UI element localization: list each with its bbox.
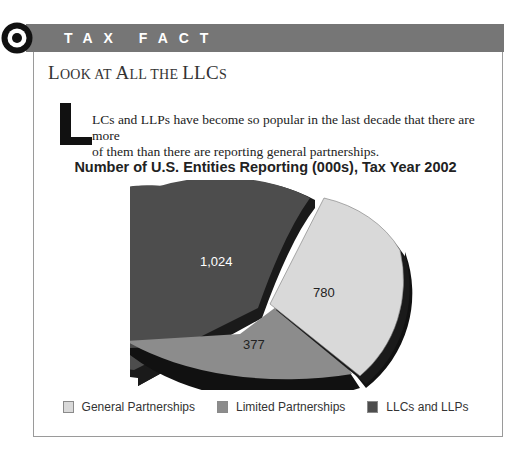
chart-title: Number of U.S. Entities Reporting (000s)… bbox=[0, 159, 531, 175]
header-bar: TAX FACT bbox=[26, 24, 504, 52]
headline-part: LL THE bbox=[129, 67, 182, 82]
legend-swatch bbox=[217, 401, 228, 413]
legend-label: General Partnerships bbox=[82, 400, 195, 414]
legend-label: LLCs and LLPs bbox=[386, 400, 468, 414]
intro-line: of them than there are reporting general… bbox=[92, 144, 497, 160]
legend-item-limited: Limited Partnerships bbox=[217, 400, 345, 414]
legend-swatch bbox=[367, 401, 378, 413]
headline-part: LLC bbox=[182, 62, 219, 83]
legend-item-llcs: LLCs and LLPs bbox=[367, 400, 468, 414]
intro-paragraph: LCs and LLPs have become so popular in t… bbox=[92, 112, 497, 160]
legend-swatch bbox=[63, 401, 74, 413]
headline-part: OOK AT bbox=[60, 67, 116, 82]
headline: LOOK AT ALL THE LLCS bbox=[48, 62, 227, 84]
label-llcs: 1,024 bbox=[200, 254, 233, 269]
drop-cap-l bbox=[60, 103, 92, 145]
intro-line: LCs and LLPs have become so popular in t… bbox=[92, 112, 497, 144]
label-general: 780 bbox=[313, 285, 335, 300]
headline-part: A bbox=[115, 62, 129, 83]
legend-item-general: General Partnerships bbox=[63, 400, 195, 414]
headline-part: L bbox=[48, 62, 60, 83]
header-title: TAX FACT bbox=[64, 30, 219, 46]
pie-chart: 1,024 780 377 bbox=[130, 180, 430, 390]
chart-legend: General Partnerships Limited Partnership… bbox=[0, 400, 531, 414]
target-icon bbox=[1, 22, 33, 54]
label-limited: 377 bbox=[243, 337, 265, 352]
legend-label: Limited Partnerships bbox=[236, 400, 345, 414]
headline-part: S bbox=[219, 67, 227, 82]
